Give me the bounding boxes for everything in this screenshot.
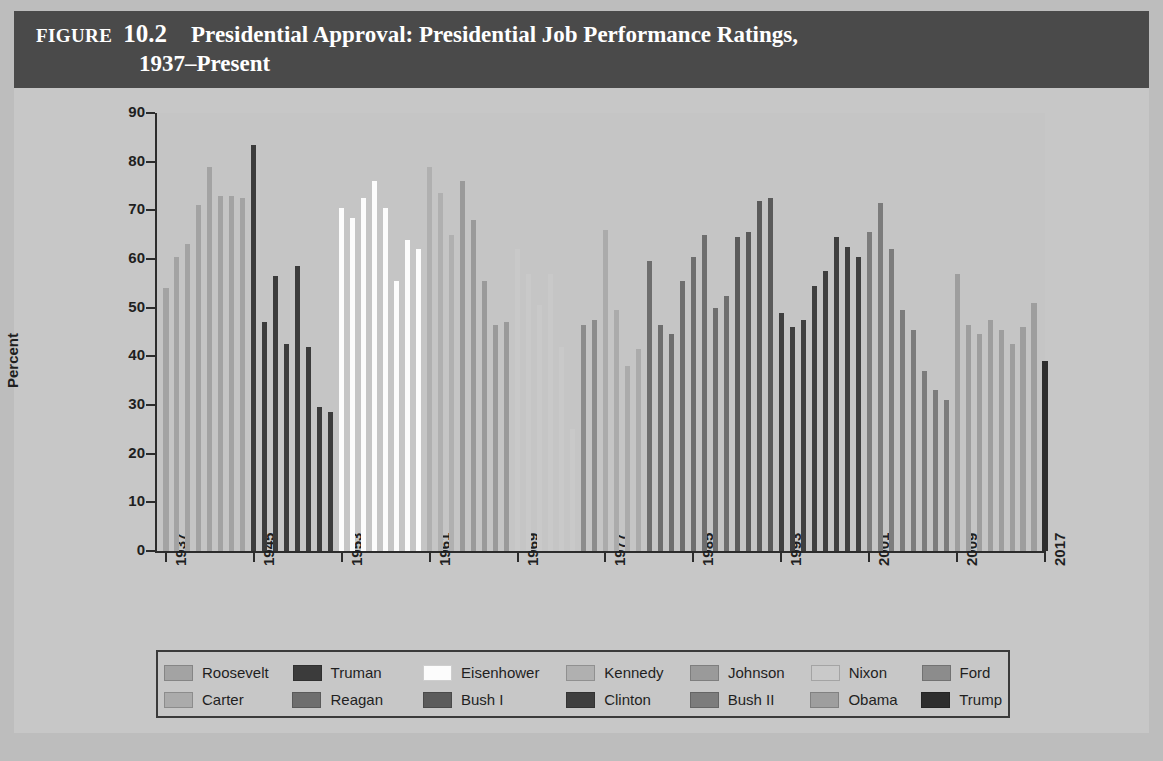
legend-item-kennedy[interactable]: Kennedy xyxy=(566,664,690,681)
x-tick-mark xyxy=(341,553,343,562)
legend-swatch-icon xyxy=(690,665,719,681)
y-tick-label: 90 xyxy=(103,103,145,120)
bar-truman-1951 xyxy=(317,407,322,551)
legend-label: Johnson xyxy=(728,664,785,681)
legend-swatch-icon xyxy=(810,692,839,708)
bar-obama-2013 xyxy=(999,330,1004,551)
bar-truman-1949 xyxy=(295,266,300,551)
legend-item-trump[interactable]: Trump xyxy=(921,691,1002,708)
bar-ford-1975 xyxy=(581,325,586,551)
legend-label: Bush II xyxy=(728,691,775,708)
legend-item-reagan[interactable]: Reagan xyxy=(292,691,422,708)
bar-nixon-1972 xyxy=(548,274,553,551)
legend-item-ford[interactable]: Ford xyxy=(922,664,1002,681)
bar-carter-1980 xyxy=(636,349,641,551)
bar-clinton-1995 xyxy=(801,320,806,551)
bar-obama-2009 xyxy=(955,274,960,551)
legend-swatch-icon xyxy=(164,692,193,708)
legend-label: Reagan xyxy=(330,691,383,708)
figure-page: Figure 10.2 Presidential Approval: Presi… xyxy=(0,0,1163,761)
bar-eisenhower-1953 xyxy=(339,208,344,551)
bar-reagan-1983 xyxy=(669,334,674,551)
y-tick-mark xyxy=(146,307,155,309)
bar-bush-i-1991 xyxy=(757,201,762,551)
bar-truman-1948 xyxy=(284,344,289,551)
bar-johnson-1964 xyxy=(460,181,465,551)
legend-label: Bush I xyxy=(461,691,504,708)
bar-clinton-1998 xyxy=(834,237,839,551)
bar-nixon-1971 xyxy=(537,305,542,551)
y-tick-mark xyxy=(146,550,155,552)
legend-item-johnson[interactable]: Johnson xyxy=(690,664,811,681)
bar-carter-1979 xyxy=(625,366,630,551)
bar-reagan-1988 xyxy=(724,296,729,552)
legend-swatch-icon xyxy=(423,665,452,681)
bar-clinton-1996 xyxy=(812,286,817,551)
x-tick-mark xyxy=(1044,553,1046,562)
bar-eisenhower-1955 xyxy=(361,198,366,551)
legend-item-carter[interactable]: Carter xyxy=(164,691,292,708)
y-tick-label: 30 xyxy=(103,395,145,412)
legend-label: Obama xyxy=(848,691,897,708)
bar-johnson-1965 xyxy=(471,220,476,551)
bar-bush-ii-2007 xyxy=(933,390,938,551)
legend-label: Ford xyxy=(960,664,991,681)
figure-header-line1: Figure 10.2 Presidential Approval: Presi… xyxy=(36,20,1149,48)
legend-item-nixon[interactable]: Nixon xyxy=(811,664,922,681)
legend-item-clinton[interactable]: Clinton xyxy=(566,691,690,708)
x-axis-line xyxy=(155,551,1046,553)
bar-reagan-1985 xyxy=(691,257,696,551)
bar-eisenhower-1957 xyxy=(383,208,388,551)
bar-clinton-1997 xyxy=(823,271,828,551)
legend-swatch-icon xyxy=(566,692,595,708)
bar-bush-i-1990 xyxy=(746,232,751,551)
legend-swatch-icon xyxy=(164,665,193,681)
bar-bush-ii-2001 xyxy=(867,232,872,551)
bar-reagan-1986 xyxy=(702,235,707,551)
bar-johnson-1968 xyxy=(504,322,509,551)
chart-plot-wrapper: Percent 0102030405060708090 193719451953… xyxy=(14,88,1149,648)
y-tick-label: 40 xyxy=(103,346,145,363)
y-tick-mark xyxy=(146,112,155,114)
x-tick-mark xyxy=(604,553,606,562)
legend-item-bush-i[interactable]: Bush I xyxy=(423,691,566,708)
bar-eisenhower-1960 xyxy=(416,249,421,551)
x-tick-mark xyxy=(429,553,431,562)
bar-roosevelt-1941 xyxy=(207,167,212,551)
y-tick-label: 0 xyxy=(103,541,145,558)
figure-title-line2: 1937–Present xyxy=(139,51,270,77)
bar-truman-1946 xyxy=(262,322,267,551)
legend-label: Truman xyxy=(331,664,382,681)
bar-obama-2015 xyxy=(1020,327,1025,551)
legend-item-eisenhower[interactable]: Eisenhower xyxy=(423,664,566,681)
legend-swatch-icon xyxy=(921,692,950,708)
y-tick-label: 10 xyxy=(103,492,145,509)
bar-carter-1978 xyxy=(614,310,619,551)
legend-swatch-icon xyxy=(566,665,595,681)
y-axis-title: Percent xyxy=(4,333,21,388)
bar-johnson-1966 xyxy=(482,281,487,551)
legend-label: Roosevelt xyxy=(202,664,269,681)
legend-swatch-icon xyxy=(922,665,951,681)
legend-item-bush-ii[interactable]: Bush II xyxy=(690,691,811,708)
bar-nixon-1974 xyxy=(570,429,575,551)
x-tick-mark xyxy=(165,553,167,562)
bar-roosevelt-1939 xyxy=(185,244,190,551)
bar-truman-1947 xyxy=(273,276,278,551)
legend-swatch-icon xyxy=(690,692,719,708)
y-tick-label: 60 xyxy=(103,249,145,266)
chart-legend: RooseveltTrumanEisenhowerKennedyJohnsonN… xyxy=(156,650,1010,718)
bar-obama-2012 xyxy=(988,320,993,551)
y-tick-mark xyxy=(146,501,155,503)
legend-label: Eisenhower xyxy=(461,664,539,681)
legend-item-obama[interactable]: Obama xyxy=(810,691,921,708)
bar-eisenhower-1956 xyxy=(372,181,377,551)
x-tick-mark xyxy=(868,553,870,562)
legend-swatch-icon xyxy=(811,665,840,681)
bar-eisenhower-1958 xyxy=(394,281,399,551)
bar-bush-ii-2006 xyxy=(922,371,927,551)
bar-nixon-1969 xyxy=(515,249,520,551)
legend-label: Carter xyxy=(202,691,244,708)
legend-item-truman[interactable]: Truman xyxy=(293,664,424,681)
legend-item-roosevelt[interactable]: Roosevelt xyxy=(164,664,293,681)
